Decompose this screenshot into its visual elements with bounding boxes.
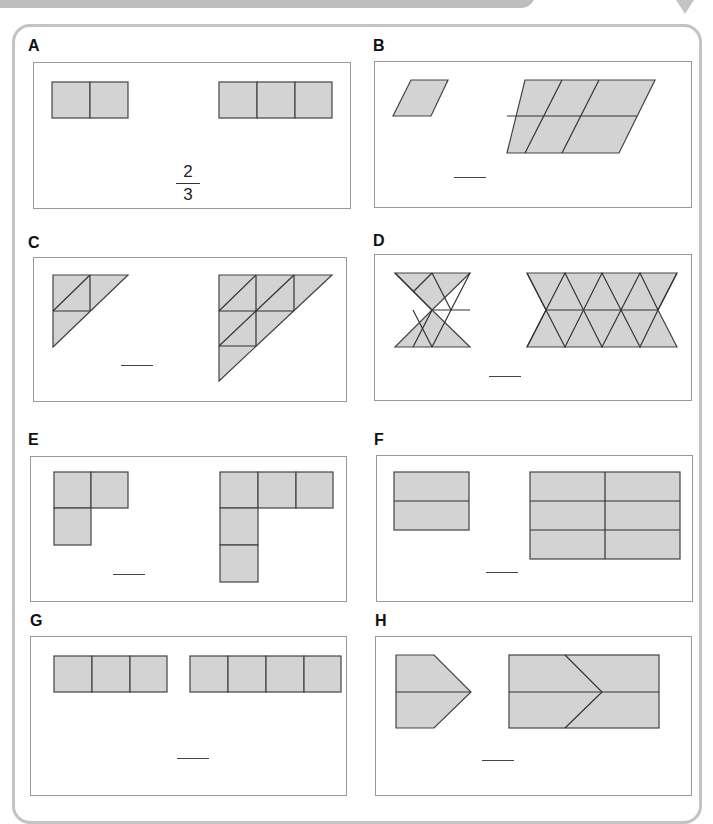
panel-e-figure	[31, 457, 348, 603]
answer-blank[interactable]	[177, 758, 209, 759]
panel-e-label: E	[28, 431, 39, 449]
panel-g-label: G	[30, 612, 42, 630]
panel-d	[374, 254, 692, 401]
numerator: 2	[183, 162, 192, 181]
panel-f-label: F	[374, 431, 384, 449]
panel-c	[33, 257, 347, 402]
panel-c-label: C	[28, 234, 40, 252]
panel-b	[374, 61, 692, 208]
panel-d-figure	[375, 255, 693, 402]
denominator: 3	[183, 185, 192, 204]
panel-b-figure	[375, 62, 693, 209]
panel-a-label: A	[28, 37, 40, 55]
panel-h-label: H	[375, 612, 387, 630]
answer-blank[interactable]	[486, 572, 518, 573]
panel-d-label: D	[373, 232, 385, 250]
answer-fraction: 2 3	[176, 163, 200, 204]
answer-blank[interactable]	[489, 376, 521, 377]
header-bar	[0, 0, 535, 8]
panel-f-figure	[377, 456, 694, 603]
answer-blank[interactable]	[121, 365, 153, 366]
panel-c-figure	[34, 258, 348, 403]
answer-blank[interactable]	[454, 177, 486, 178]
panel-h-figure	[376, 637, 693, 797]
panel-a: 2 3	[33, 62, 351, 209]
panel-g-figure	[31, 637, 348, 797]
arrow-down-icon	[676, 0, 694, 14]
panel-b-label: B	[373, 37, 385, 55]
panel-g	[30, 636, 347, 796]
panel-e	[30, 456, 347, 602]
panel-h	[375, 636, 692, 796]
answer-blank[interactable]	[113, 574, 145, 575]
panel-f	[376, 455, 693, 602]
answer-blank[interactable]	[482, 760, 514, 761]
